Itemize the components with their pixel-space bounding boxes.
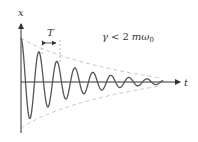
period-label: T xyxy=(47,27,55,38)
x-axis-label: t xyxy=(184,77,189,88)
damped-oscillation-diagram: x t T γ<2mω0 xyxy=(0,0,198,142)
lower-envelope xyxy=(21,86,160,128)
y-axis-label: x xyxy=(18,7,24,18)
damping-condition: γ<2mω0 xyxy=(102,31,154,44)
damped-wave-curve xyxy=(21,38,163,118)
